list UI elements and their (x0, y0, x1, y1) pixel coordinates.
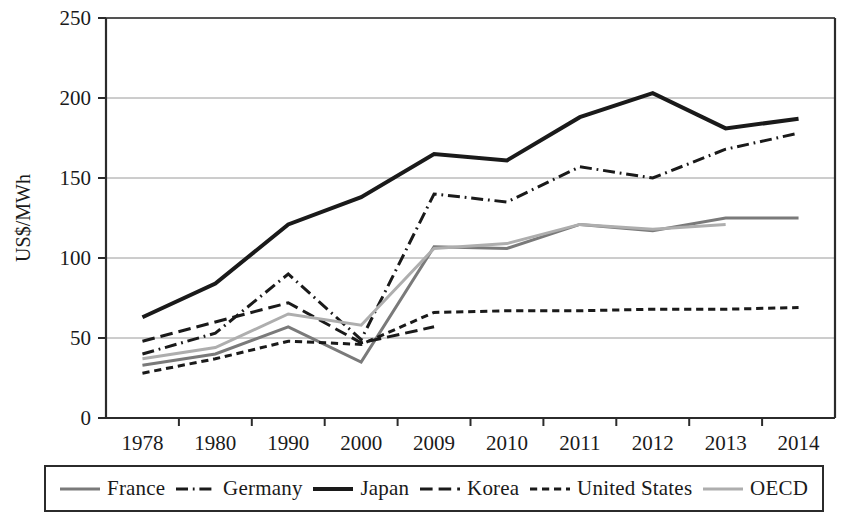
legend-item-germany[interactable]: Germany (176, 476, 303, 501)
legend-label: United States (577, 476, 692, 501)
y-tick-label-100: 100 (60, 246, 92, 270)
legend-label: OECD (750, 476, 808, 501)
legend-item-japan[interactable]: Japan (313, 476, 409, 501)
x-axis-ticks (179, 418, 762, 426)
x-axis-label-2010: 2010 (486, 431, 528, 455)
legend-swatch-united-states-icon (530, 482, 570, 496)
x-axis-label-2012: 2012 (632, 431, 674, 455)
x-axis-label-2009: 2009 (413, 431, 455, 455)
legend-label: Germany (223, 476, 303, 501)
x-axis-labels-group: 1978198019902000200920102011201220132014 (121, 431, 820, 455)
x-axis-label-2013: 2013 (705, 431, 747, 455)
legend-label: Korea (467, 476, 519, 501)
x-axis-label-1990: 1990 (267, 431, 309, 455)
series-line-united-states (142, 308, 798, 374)
series-line-germany (142, 133, 798, 354)
line-chart-figure: 050100150200250 US$/MWh 1978198019902000… (0, 0, 865, 529)
y-tick-label-200: 200 (60, 86, 92, 110)
legend-item-united-states[interactable]: United States (530, 476, 692, 501)
chart-svg: 050100150200250 US$/MWh 1978198019902000… (0, 0, 865, 460)
legend-label: Japan (360, 476, 409, 501)
y-axis-title: US$/MWh (12, 174, 34, 262)
legend-swatch-france-icon (60, 482, 100, 496)
legend-item-france[interactable]: France (60, 476, 165, 501)
series-line-japan (142, 93, 798, 317)
y-axis-title-group: US$/MWh (12, 174, 34, 262)
series-line-france (142, 218, 798, 365)
legend-swatch-germany-icon (176, 482, 216, 496)
data-series-group (142, 93, 798, 373)
series-line-korea (142, 303, 434, 343)
legend-item-oecd[interactable]: OECD (703, 476, 808, 501)
y-tick-label-50: 50 (70, 326, 91, 350)
legend-label: France (107, 476, 165, 501)
legend-swatch-korea-icon (420, 482, 460, 496)
legend-swatch-oecd-icon (703, 482, 743, 496)
chart-legend: FranceGermanyJapanKoreaUnited StatesOECD (44, 465, 824, 512)
x-axis-label-2014: 2014 (778, 431, 821, 455)
y-tick-label-250: 250 (60, 6, 92, 30)
gridlines-group (106, 18, 835, 338)
x-axis-label-1980: 1980 (194, 431, 236, 455)
legend-item-korea[interactable]: Korea (420, 476, 519, 501)
y-axis-ticks: 050100150200250 (60, 6, 107, 430)
series-line-oecd (142, 224, 725, 358)
x-axis-label-2011: 2011 (559, 431, 600, 455)
x-axis-label-1978: 1978 (121, 431, 163, 455)
y-tick-label-0: 0 (81, 406, 92, 430)
chart-plot-area: 050100150200250 US$/MWh 1978198019902000… (0, 0, 865, 460)
legend-swatch-japan-icon (313, 482, 353, 496)
x-axis-label-2000: 2000 (340, 431, 382, 455)
y-tick-label-150: 150 (60, 166, 92, 190)
